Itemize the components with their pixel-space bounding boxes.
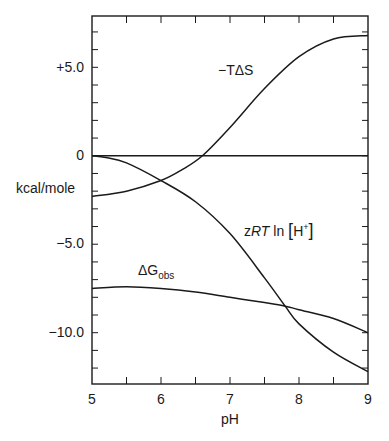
series-label-zrt-ln-h: zRT ln [H+]	[244, 220, 314, 240]
series-label-delta-g-obs: ΔGobs	[138, 262, 174, 281]
zrt-ln-h-curve	[92, 156, 368, 372]
y-tick-label-minus5: −5.0	[56, 235, 84, 251]
x-tick-label-7: 7	[226, 391, 234, 407]
chart: +5.0 0 −5.0 −10.0 5 6 7 8 9 kcal/mole pH…	[0, 0, 389, 441]
x-tick-label-8: 8	[295, 391, 303, 407]
x-tick-label-6: 6	[157, 391, 165, 407]
y-tick-label-plus5: +5.0	[56, 59, 84, 75]
y-tick-label-minus10: −10.0	[49, 324, 85, 340]
data-curves	[92, 35, 368, 371]
x-tick-label-5: 5	[88, 391, 96, 407]
x-tick-label-9: 9	[364, 391, 372, 407]
x-axis-title: pH	[221, 411, 239, 427]
y-tick-label-0: 0	[76, 147, 84, 163]
delta-g-obs-curve	[92, 287, 368, 333]
y-axis-title: kcal/mole	[16, 180, 75, 196]
minus-t-delta-s-curve	[92, 35, 368, 196]
series-label-minus-t-delta-s: −TΔS	[218, 62, 253, 78]
